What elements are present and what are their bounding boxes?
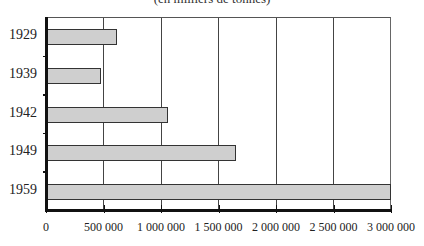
x-tick-label: 1 000 000: [137, 220, 185, 235]
bar-1942: [46, 107, 168, 123]
y-tick: [43, 171, 48, 173]
gridline: [218, 18, 219, 210]
x-tick: [104, 205, 105, 213]
plot-area: [46, 17, 391, 210]
x-tick: [276, 205, 277, 213]
bar-1929: [46, 29, 117, 45]
x-tick: [391, 205, 392, 213]
chart-subtitle: (en milliers de tonnes): [0, 0, 424, 7]
x-tick: [46, 205, 47, 213]
bar-1959: [46, 184, 391, 200]
y-tick: [43, 56, 48, 58]
y-tick: [43, 133, 48, 135]
x-tick-label: 2 000 000: [252, 220, 300, 235]
x-tick-label: 3 000 000: [367, 220, 415, 235]
y-axis: [45, 17, 48, 212]
y-category-label: 1949: [0, 143, 37, 159]
gridline: [276, 18, 277, 210]
x-tick: [161, 205, 162, 213]
y-category-label: 1929: [0, 27, 37, 43]
y-category-label: 1959: [0, 182, 37, 198]
y-category-label: 1942: [0, 105, 37, 121]
gridline: [333, 18, 334, 210]
x-tick-label: 0: [43, 220, 49, 235]
x-tick: [219, 205, 220, 213]
x-tick: [334, 205, 335, 213]
x-tick-label: 500 000: [84, 220, 123, 235]
bar-1949: [46, 145, 236, 161]
y-tick: [43, 94, 48, 96]
x-tick-label: 2 500 000: [310, 220, 358, 235]
y-category-label: 1939: [0, 66, 37, 82]
bar-1939: [46, 68, 101, 84]
x-tick-label: 1 500 000: [195, 220, 243, 235]
